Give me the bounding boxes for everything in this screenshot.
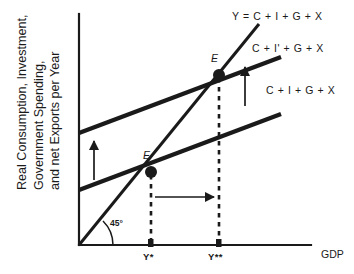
- label-tick-initial-output: Y*: [143, 252, 154, 262]
- y-axis-title-line-1: Real Consumption, Investment,: [14, 0, 31, 190]
- label-equilibrium-initial: E: [143, 150, 150, 161]
- equilibrium-dot-new: [213, 69, 225, 81]
- label-line-expenditure-initial: C + I + G + X: [266, 85, 335, 96]
- label-line-expenditure-shifted: C + I' + G + X: [252, 43, 324, 54]
- y-axis-title-line-2: Government Spending,: [31, 0, 48, 190]
- label-tick-new-output: Y**: [208, 252, 223, 262]
- x-axis-title: GDP: [321, 249, 344, 260]
- y-axis-title-line-3: and net Exports per Year: [47, 0, 64, 190]
- line-expenditure-initial: [79, 114, 281, 190]
- equilibrium-dot-initial: [145, 166, 157, 178]
- tick-mark-initial-output: [148, 239, 154, 247]
- label-line-45-degree: Y = C + I + G + X: [232, 11, 323, 22]
- label-equilibrium-new: E: [211, 53, 218, 64]
- y-axis-title: Real Consumption, Investment, Government…: [14, 0, 64, 190]
- label-angle-45: 45°: [110, 219, 123, 228]
- tick-mark-new-output: [216, 239, 222, 247]
- expenditure-equilibrium-diagram: Real Consumption, Investment, Government…: [0, 0, 354, 274]
